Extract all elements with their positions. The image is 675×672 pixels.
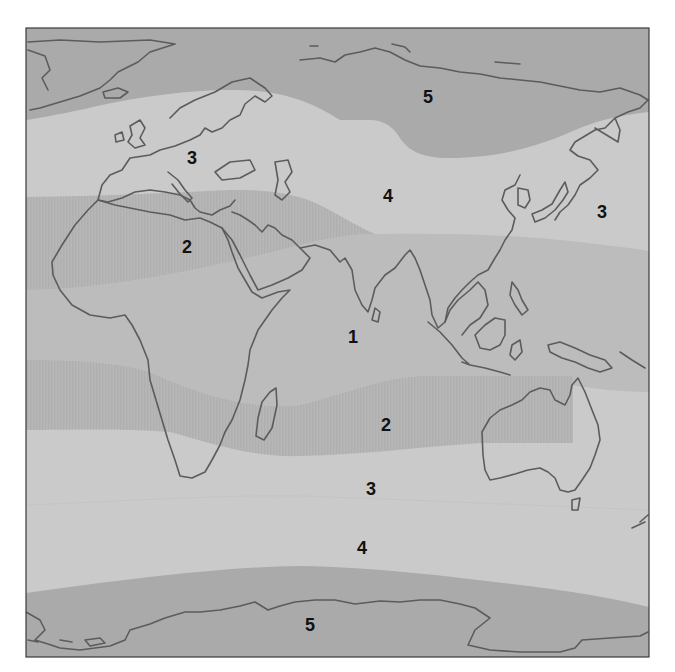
zone-label-4-south: 4 xyxy=(357,538,367,558)
zone-label-1-indian-ocean: 1 xyxy=(348,327,358,347)
zone-label-2-sahara: 2 xyxy=(182,237,192,257)
zone-label-3-pacific: 3 xyxy=(597,202,607,222)
zone-label-5-antarctic: 5 xyxy=(305,615,315,635)
climate-zone-map: 5 3 4 3 2 1 2 3 4 5 xyxy=(0,0,675,672)
zone-label-4-asia: 4 xyxy=(383,186,393,206)
zone-label-5-north: 5 xyxy=(423,87,433,107)
zone-label-3-europe: 3 xyxy=(187,148,197,168)
zone-label-3-south: 3 xyxy=(366,479,376,499)
zone-label-2-south: 2 xyxy=(381,415,391,435)
